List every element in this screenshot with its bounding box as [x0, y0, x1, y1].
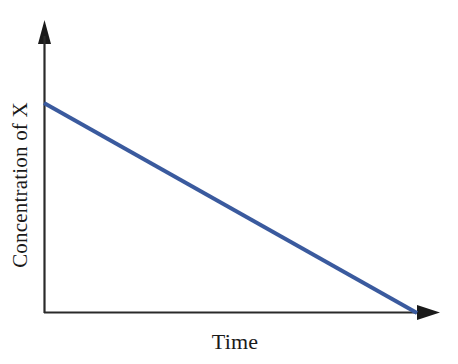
x-axis-label: Time [212, 329, 258, 355]
concentration-vs-time-chart: Concentration of X Time [0, 0, 458, 364]
data-series-concentration-line [44, 103, 417, 313]
y-axis-label: Concentration of X [8, 102, 33, 268]
chart-plot-area [0, 0, 458, 364]
x-axis-arrowhead-icon [417, 305, 440, 320]
